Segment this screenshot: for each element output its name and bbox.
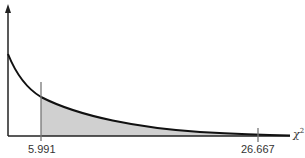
critical-value-label: 5.991	[28, 143, 56, 155]
statistic-label: 26.667	[241, 143, 275, 155]
y-axis-arrow-icon	[5, 4, 11, 13]
chi-symbol: χ	[293, 128, 300, 141]
superscript-two: 2	[300, 127, 304, 135]
chi-square-chart	[0, 0, 305, 158]
x-axis-label: χ2	[293, 127, 304, 141]
shaded-tail-area	[41, 97, 290, 136]
